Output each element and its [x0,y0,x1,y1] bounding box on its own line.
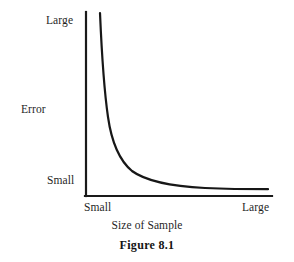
x-axis-tick-small: Small [84,201,111,214]
x-axis-title: Size of Sample [0,219,294,232]
error-decay-curve [100,13,268,189]
y-axis-tick-small: Small [47,174,74,187]
y-axis-tick-large: Large [46,14,73,27]
figure-container: Large Small Error Small Large Size of Sa… [0,0,294,262]
figure-caption: Figure 8.1 [0,238,294,253]
y-axis-title: Error [21,103,46,116]
x-axis-tick-large: Large [242,201,269,214]
